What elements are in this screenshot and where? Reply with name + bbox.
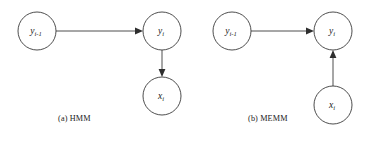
node-hmm-x-curr-subscript: i [162,95,164,102]
node-memm-y-curr-subscript: i [333,30,335,37]
node-hmm-y-prev-subscript: i-1 [34,30,41,37]
node-memm-x-curr-subscript: i [333,104,335,111]
node-memm-y-prev-subscript: i-1 [229,30,236,37]
node-memm-y-prev: yi-1 [213,12,251,50]
edge-memm-yprev-to-ycurr [251,28,314,35]
node-hmm-y-curr: yi [143,12,181,50]
edge-hmm-ycurr-to-xcurr [159,50,166,77]
figure-root: yi-1 yi xi [0,0,382,142]
node-memm-y-curr: yi [314,12,352,50]
panel-memm: yi-1 yi xi [213,12,352,124]
node-memm-x-curr: xi [314,86,352,124]
panel-hmm: yi-1 yi xi [18,12,181,115]
panel-caption-hmm: (a) HMM [58,114,91,123]
node-hmm-y-curr-subscript: i [162,30,164,37]
edge-hmm-yprev-to-ycurr [56,28,143,35]
node-hmm-y-prev: yi-1 [18,12,56,50]
node-hmm-x-curr: xi [143,77,181,115]
panel-caption-memm: (b) MEMM [248,114,288,123]
edge-memm-xcurr-to-ycurr [330,50,337,86]
